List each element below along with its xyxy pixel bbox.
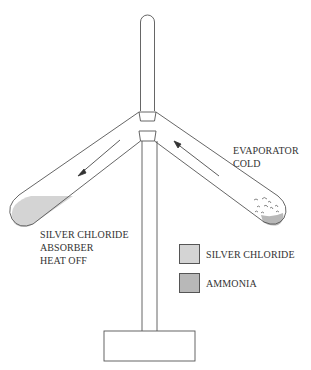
top-vertical-tube — [141, 15, 155, 111]
legend-label-ammonia: AMMONIA — [206, 277, 257, 290]
flow-arrow-right — [174, 141, 219, 176]
refrigeration-apparatus-diagram: EVAPORATOR COLD SILVER CHLORIDE ABSORBER… — [0, 0, 311, 370]
flow-arrow-left — [78, 140, 120, 176]
vertical-stem — [142, 141, 157, 331]
evaporator-label-line-1: EVAPORATOR — [233, 144, 299, 157]
evaporator-label-line-2: COLD — [233, 157, 299, 170]
stand-base — [104, 331, 195, 361]
lower-connector — [139, 131, 156, 141]
evaporator-label: EVAPORATOR COLD — [233, 144, 299, 170]
absorber-label-line-2: ABSORBER — [40, 241, 129, 254]
evaporator-ammonia-fill — [261, 213, 283, 226]
absorber-label: SILVER CHLORIDE ABSORBER HEAT OFF — [40, 228, 129, 267]
legend-swatch-silver-chloride — [179, 244, 200, 264]
left-arm-absorber-tube — [10, 112, 141, 227]
legend-swatch-ammonia — [179, 273, 200, 293]
absorber-label-line-3: HEAT OFF — [40, 254, 129, 267]
upper-connector — [139, 112, 156, 121]
absorber-label-line-1: SILVER CHLORIDE — [40, 228, 129, 241]
legend-label-silver-chloride: SILVER CHLORIDE — [206, 248, 295, 261]
evaporator-granules — [254, 198, 279, 214]
apparatus-drawing — [0, 0, 311, 370]
